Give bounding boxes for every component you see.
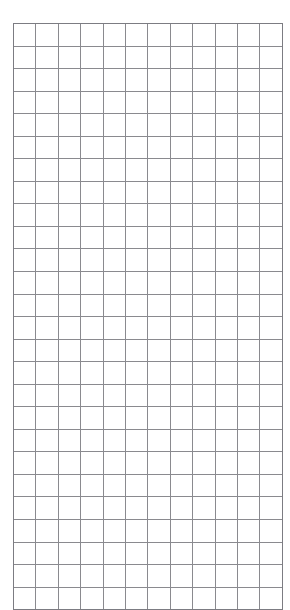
grid-cell[interactable] — [193, 317, 215, 340]
grid-cell[interactable] — [260, 497, 282, 520]
grid-cell[interactable] — [125, 384, 147, 407]
grid-cell[interactable] — [170, 587, 192, 610]
grid-cell[interactable] — [215, 452, 237, 475]
grid-cell[interactable] — [81, 136, 103, 159]
grid-cell[interactable] — [58, 136, 80, 159]
grid-cell[interactable] — [125, 520, 147, 543]
grid-cell[interactable] — [237, 317, 259, 340]
grid-cell[interactable] — [215, 429, 237, 452]
grid-cell[interactable] — [81, 520, 103, 543]
grid-cell[interactable] — [58, 114, 80, 137]
grid-cell[interactable] — [81, 294, 103, 317]
grid-cell[interactable] — [14, 542, 36, 565]
grid-cell[interactable] — [170, 249, 192, 272]
grid-cell[interactable] — [36, 474, 58, 497]
grid-cell[interactable] — [148, 91, 170, 114]
grid-cell[interactable] — [260, 46, 282, 69]
grid-cell[interactable] — [193, 565, 215, 588]
grid-cell[interactable] — [103, 384, 125, 407]
grid-cell[interactable] — [103, 587, 125, 610]
grid-cell[interactable] — [36, 339, 58, 362]
grid-cell[interactable] — [14, 294, 36, 317]
grid-cell[interactable] — [170, 46, 192, 69]
grid-cell[interactable] — [81, 24, 103, 47]
grid-cell[interactable] — [14, 565, 36, 588]
grid-cell[interactable] — [215, 272, 237, 295]
grid-cell[interactable] — [125, 272, 147, 295]
grid-cell[interactable] — [170, 272, 192, 295]
grid-cell[interactable] — [237, 114, 259, 137]
grid-cell[interactable] — [193, 587, 215, 610]
grid-cell[interactable] — [170, 384, 192, 407]
grid-cell[interactable] — [260, 474, 282, 497]
grid-cell[interactable] — [14, 587, 36, 610]
grid-cell[interactable] — [14, 249, 36, 272]
grid-cell[interactable] — [148, 520, 170, 543]
grid-cell[interactable] — [237, 587, 259, 610]
grid-cell[interactable] — [193, 339, 215, 362]
grid-cell[interactable] — [103, 317, 125, 340]
grid-cell[interactable] — [36, 384, 58, 407]
grid-cell[interactable] — [260, 542, 282, 565]
grid-cell[interactable] — [148, 114, 170, 137]
grid-cell[interactable] — [170, 204, 192, 227]
grid-cell[interactable] — [103, 226, 125, 249]
grid-cell[interactable] — [170, 24, 192, 47]
grid-cell[interactable] — [103, 407, 125, 430]
grid-cell[interactable] — [237, 204, 259, 227]
grid-cell[interactable] — [260, 294, 282, 317]
grid-cell[interactable] — [125, 542, 147, 565]
grid-cell[interactable] — [260, 587, 282, 610]
grid-cell[interactable] — [148, 226, 170, 249]
grid-cell[interactable] — [14, 46, 36, 69]
grid-cell[interactable] — [58, 384, 80, 407]
grid-cell[interactable] — [103, 181, 125, 204]
grid-cell[interactable] — [58, 159, 80, 182]
grid-cell[interactable] — [148, 69, 170, 92]
grid-cell[interactable] — [148, 474, 170, 497]
grid-cell[interactable] — [58, 542, 80, 565]
grid-cell[interactable] — [193, 114, 215, 137]
grid-cell[interactable] — [125, 159, 147, 182]
grid-cell[interactable] — [237, 384, 259, 407]
grid-cell[interactable] — [36, 565, 58, 588]
grid-cell[interactable] — [14, 520, 36, 543]
grid-cell[interactable] — [81, 249, 103, 272]
grid-cell[interactable] — [193, 429, 215, 452]
grid-cell[interactable] — [36, 24, 58, 47]
grid-cell[interactable] — [148, 272, 170, 295]
grid-cell[interactable] — [36, 587, 58, 610]
grid-cell[interactable] — [215, 24, 237, 47]
grid-cell[interactable] — [170, 452, 192, 475]
grid-cell[interactable] — [125, 46, 147, 69]
grid-cell[interactable] — [14, 497, 36, 520]
grid-cell[interactable] — [260, 407, 282, 430]
grid-cell[interactable] — [58, 474, 80, 497]
grid-cell[interactable] — [237, 362, 259, 385]
grid-cell[interactable] — [193, 24, 215, 47]
grid-cell[interactable] — [103, 204, 125, 227]
grid-cell[interactable] — [58, 249, 80, 272]
grid-cell[interactable] — [170, 69, 192, 92]
grid-cell[interactable] — [125, 339, 147, 362]
grid-cell[interactable] — [260, 181, 282, 204]
grid-cell[interactable] — [14, 317, 36, 340]
grid-cell[interactable] — [58, 520, 80, 543]
grid-cell[interactable] — [215, 136, 237, 159]
grid-cell[interactable] — [14, 474, 36, 497]
grid-cell[interactable] — [170, 159, 192, 182]
grid-cell[interactable] — [170, 362, 192, 385]
grid-cell[interactable] — [148, 24, 170, 47]
grid-cell[interactable] — [58, 91, 80, 114]
grid-cell[interactable] — [237, 272, 259, 295]
grid-cell[interactable] — [193, 159, 215, 182]
grid-cell[interactable] — [103, 136, 125, 159]
grid-cell[interactable] — [81, 429, 103, 452]
grid-cell[interactable] — [14, 272, 36, 295]
grid-cell[interactable] — [14, 384, 36, 407]
grid-cell[interactable] — [125, 474, 147, 497]
grid-cell[interactable] — [237, 294, 259, 317]
grid-cell[interactable] — [14, 362, 36, 385]
grid-cell[interactable] — [148, 294, 170, 317]
grid-cell[interactable] — [36, 452, 58, 475]
